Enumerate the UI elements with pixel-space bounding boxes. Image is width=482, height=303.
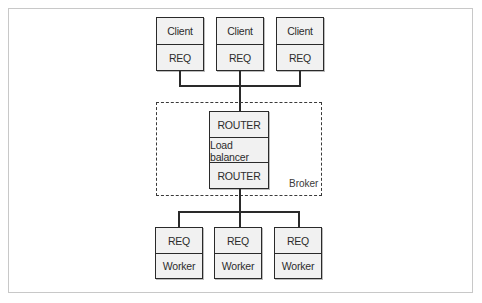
worker-label: Worker (156, 253, 202, 278)
connector-worker-3 (298, 211, 300, 227)
broker-stack: ROUTER Load balancer ROUTER (209, 111, 269, 189)
client-label: Client (157, 18, 203, 44)
req-socket-label: REQ (157, 44, 203, 70)
connector-client-3 (299, 71, 301, 86)
req-socket-label: REQ (215, 228, 261, 253)
client-box-3: Client REQ (276, 17, 324, 71)
client-box-2: Client REQ (216, 17, 264, 71)
worker-label: Worker (275, 253, 321, 278)
req-socket-label: REQ (156, 228, 202, 253)
connector-workers-bus (178, 211, 300, 213)
connector-clients-bus (179, 85, 301, 87)
worker-box-1: REQ Worker (155, 227, 203, 279)
connector-broker-down (239, 189, 241, 227)
router-frontend-label: ROUTER (210, 112, 268, 137)
router-backend-label: ROUTER (210, 162, 268, 188)
client-label: Client (217, 18, 263, 44)
req-socket-label: REQ (275, 228, 321, 253)
req-socket-label: REQ (217, 44, 263, 70)
client-label: Client (277, 18, 323, 44)
client-box-1: Client REQ (156, 17, 204, 71)
connector-worker-1 (178, 211, 180, 227)
worker-box-3: REQ Worker (274, 227, 322, 279)
worker-box-2: REQ Worker (214, 227, 262, 279)
req-socket-label: REQ (277, 44, 323, 70)
connector-client-1 (179, 71, 181, 86)
worker-label: Worker (215, 253, 261, 278)
load-balancer-label: Load balancer (210, 137, 268, 163)
broker-label: Broker (289, 178, 318, 189)
